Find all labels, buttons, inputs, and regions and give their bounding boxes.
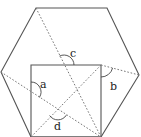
angle-label-d: d: [54, 120, 61, 133]
angle-label-b: b: [110, 80, 117, 93]
dotted-line-hex-topleft-to-square-bottomright: [36, 8, 101, 137]
hexagon: [1, 8, 139, 137]
dotted-line-square-diagonal: [31, 65, 101, 137]
angle-b-arc: [101, 68, 113, 77]
geometry-diagram: a b c d: [0, 0, 141, 137]
dotted-line-square-topright-to-hex-right: [101, 65, 139, 75]
angle-label-c: c: [70, 47, 76, 60]
angle-label-a: a: [40, 78, 47, 91]
